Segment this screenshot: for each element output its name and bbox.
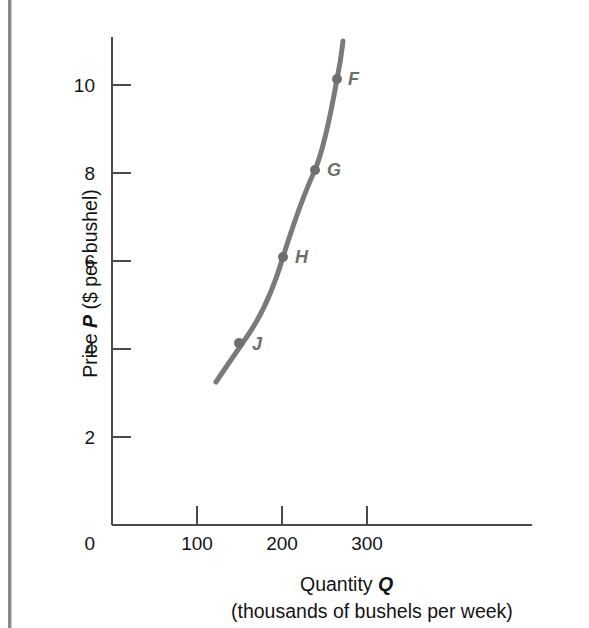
data-point-H <box>278 252 288 262</box>
supply-curve-figure: 10 8 6 4 2 0 100 200 300 Price P ($ per … <box>0 0 589 628</box>
point-label-J: J <box>252 334 262 355</box>
point-label-G: G <box>327 160 341 181</box>
supply-curve <box>216 41 343 382</box>
x-axis-title: Quantity Q <box>300 573 393 596</box>
y-axis-title-post: ($ per bushel) <box>79 189 101 315</box>
data-point-markers <box>234 74 342 348</box>
x-axis-title-symbol: Q <box>378 573 393 595</box>
xtick-label-300: 300 <box>337 534 397 553</box>
y-axis-title-symbol: P <box>79 315 101 328</box>
ytick-label-2: 2 <box>55 428 95 447</box>
x-axis-title-text: Quantity <box>300 573 373 595</box>
y-axis-ticks <box>112 85 131 437</box>
data-point-F <box>332 74 342 84</box>
data-point-G <box>310 165 320 175</box>
xtick-label-200: 200 <box>252 534 312 553</box>
x-axis-ticks <box>197 506 367 525</box>
y-axis-title: Price P ($ per bushel) <box>79 154 102 414</box>
data-point-J <box>234 338 244 348</box>
point-label-F: F <box>348 69 359 90</box>
xtick-label-100: 100 <box>167 534 227 553</box>
y-axis-title-pre: Price <box>79 328 101 378</box>
ytick-label-0: 0 <box>55 534 95 553</box>
point-label-H: H <box>295 247 308 268</box>
x-axis-subtitle: (thousands of bushels per week) <box>231 600 513 623</box>
ytick-label-10: 10 <box>55 76 95 95</box>
